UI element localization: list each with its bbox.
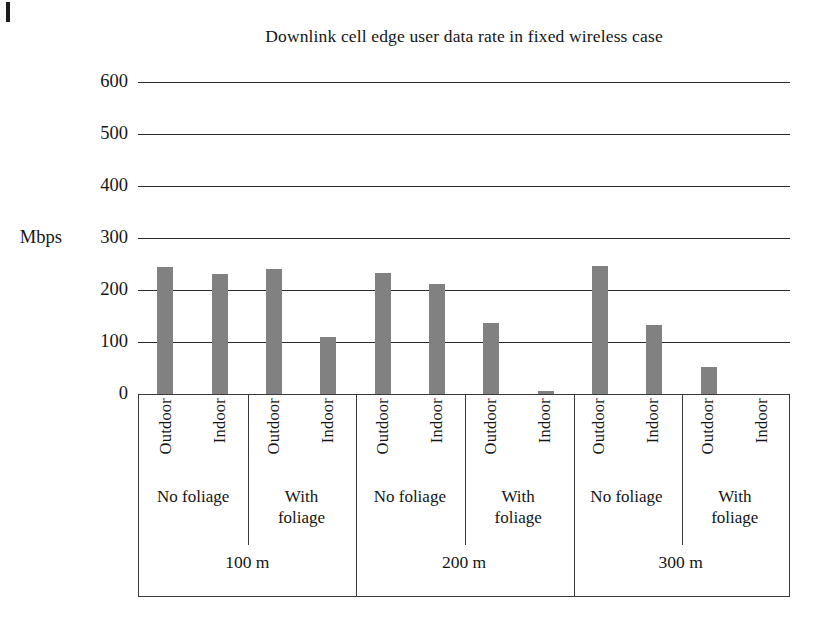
label-outdoor: Outdoor [483,398,500,454]
plot-area [138,82,790,394]
label-foliage: No foliage [590,487,662,508]
page-title: Downlink cell edge user data rate in fix… [138,26,790,47]
cell-distance: 100 m [139,545,356,596]
gridline-100 [138,342,790,343]
bar [212,274,228,394]
separator-foliage [465,395,466,545]
y-axis-labels: 0100200300400500600Mbps [62,82,128,394]
label-outdoor: Outdoor [375,398,392,454]
cell-foliage: With foliage [247,483,355,545]
y-tick-label-400: 400 [68,176,128,195]
cell-indoor: Indoor [735,395,789,483]
y-tick-label-100: 100 [68,332,128,351]
label-indoor: Indoor [537,398,554,443]
y-tick-label-500: 500 [68,124,128,143]
label-indoor: Indoor [320,398,337,443]
bar [320,337,336,394]
cell-outdoor: Outdoor [139,395,193,483]
bar [483,323,499,394]
bar [646,325,662,394]
gridline-600 [138,82,790,83]
gridline-200 [138,290,790,291]
cell-outdoor: Outdoor [247,395,301,483]
row-outdoor-indoor: OutdoorIndoorOutdoorIndoorOutdoorIndoorO… [139,395,789,483]
cell-indoor: Indoor [302,395,356,483]
label-outdoor: Outdoor [700,398,717,454]
y-tick-label-300: 300 [68,228,128,247]
bar [375,273,391,394]
cell-foliage: With foliage [464,483,572,545]
label-foliage: With foliage [487,487,549,528]
cell-outdoor: Outdoor [681,395,735,483]
chart-page: Downlink cell edge user data rate in fix… [0,0,822,628]
bar [429,284,445,394]
cell-outdoor: Outdoor [572,395,626,483]
y-tick-label-600: 600 [68,72,128,91]
separator-foliage [248,395,249,545]
y-tick-label-200: 200 [68,280,128,299]
row-distance: 100 m200 m300 m [139,545,789,596]
cell-outdoor: Outdoor [464,395,518,483]
bar [266,269,282,394]
bar [157,267,173,394]
label-indoor: Indoor [645,398,662,443]
cell-foliage: With foliage [681,483,789,545]
cell-foliage: No foliage [572,483,680,545]
category-label-table: OutdoorIndoorOutdoorIndoorOutdoorIndoorO… [138,394,790,597]
label-foliage: With foliage [704,487,766,528]
cell-distance: 200 m [356,545,573,596]
label-foliage: No foliage [157,487,229,508]
y-tick-label-0: 0 [68,384,128,403]
scan-artifact-mark [6,2,10,22]
label-indoor: Indoor [212,398,229,443]
separator-distance-group [356,395,357,596]
label-distance: 100 m [225,554,269,572]
cell-indoor: Indoor [410,395,464,483]
separator-foliage [682,395,683,545]
cell-indoor: Indoor [518,395,572,483]
bar [592,266,608,394]
label-indoor: Indoor [754,398,771,443]
label-foliage: With foliage [270,487,332,528]
separator-distance-group [574,395,575,596]
cell-outdoor: Outdoor [356,395,410,483]
gridline-500 [138,134,790,135]
label-indoor: Indoor [429,398,446,443]
label-distance: 300 m [659,554,703,572]
cell-distance: 300 m [572,545,789,596]
cell-foliage: No foliage [356,483,464,545]
y-axis-unit-label: Mbps [6,228,62,247]
label-foliage: No foliage [374,487,446,508]
row-foliage: No foliageWith foliageNo foliageWith fol… [139,483,789,545]
cell-foliage: No foliage [139,483,247,545]
gridline-300 [138,238,790,239]
label-distance: 200 m [442,554,486,572]
label-outdoor: Outdoor [266,398,283,454]
cell-indoor: Indoor [193,395,247,483]
label-outdoor: Outdoor [158,398,175,454]
label-outdoor: Outdoor [591,398,608,454]
gridline-400 [138,186,790,187]
cell-indoor: Indoor [627,395,681,483]
bar [701,367,717,394]
